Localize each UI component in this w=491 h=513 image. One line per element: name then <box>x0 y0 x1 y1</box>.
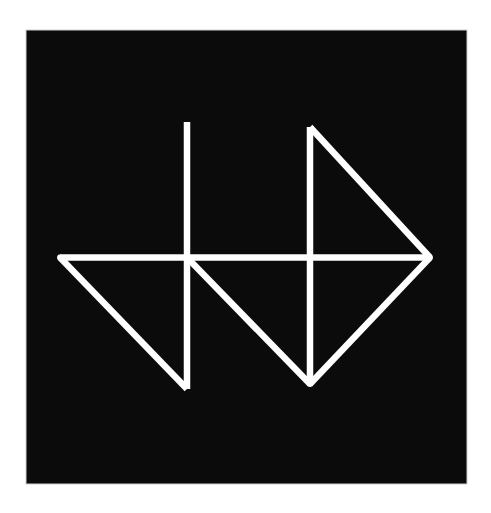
artwork-canvas <box>0 0 491 513</box>
vertex-joint <box>427 255 433 261</box>
vertex-joint <box>57 255 63 261</box>
vertex-joint <box>307 381 313 387</box>
